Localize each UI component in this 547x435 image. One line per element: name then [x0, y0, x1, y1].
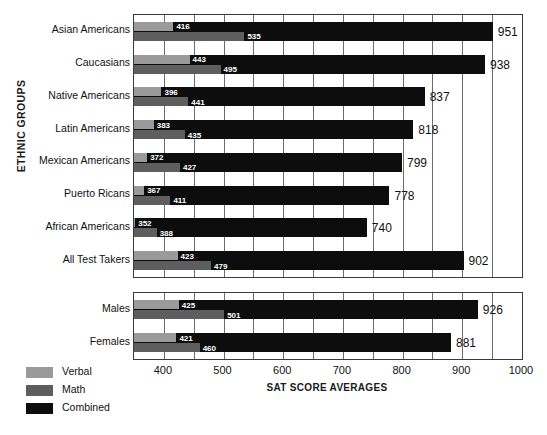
legend-swatch	[26, 403, 53, 414]
bar-verbal	[134, 333, 176, 342]
chart-row: 425501926	[134, 293, 522, 326]
bar-math	[134, 130, 185, 139]
bar-value-combined: 881	[451, 335, 476, 351]
chart-row: 383435818	[134, 113, 522, 146]
bar-verbal	[134, 186, 144, 195]
category-label-latin-americans: Latin Americans	[18, 122, 130, 134]
legend-swatch	[26, 367, 53, 378]
bar-math	[134, 196, 170, 205]
category-label-african-americans: African Americans	[18, 220, 130, 232]
bar-math	[134, 261, 211, 270]
category-label-caucasians: Caucasians	[18, 56, 130, 68]
legend-swatch	[26, 385, 53, 396]
bar-verbal	[134, 22, 173, 31]
bar-value-verbal: 352	[135, 219, 151, 228]
bar-value-math: 441	[188, 98, 204, 107]
chart-row: 421460881	[134, 326, 522, 359]
bar-value-math: 411	[170, 196, 186, 205]
bar-verbal	[134, 251, 178, 260]
category-label-males: Males	[18, 302, 130, 314]
bar-value-verbal: 416	[173, 22, 189, 31]
bar-value-verbal: 421	[176, 334, 192, 343]
x-tick-label: 700	[322, 364, 362, 376]
bar-value-math: 495	[221, 65, 237, 74]
chart-row: 416535951	[134, 15, 522, 48]
bar-verbal	[134, 55, 190, 64]
chart-row: 443495938	[134, 48, 522, 81]
category-label-puerto-ricans: Puerto Ricans	[18, 187, 130, 199]
x-tick-label: 900	[441, 364, 481, 376]
bar-verbal	[134, 153, 147, 162]
bar-value-combined: 837	[425, 89, 450, 105]
category-label-native-americans: Native Americans	[18, 89, 130, 101]
category-label-all-test-takers: All Test Takers	[18, 253, 130, 265]
x-axis-title: SAT SCORE AVERAGES	[133, 382, 521, 393]
bar-value-combined: 818	[413, 122, 438, 138]
bar-verbal	[134, 300, 179, 309]
chart-row: 367411778	[134, 179, 522, 212]
chart-panel-gender: 425501926421460881	[133, 292, 523, 360]
category-label-asian-americans: Asian Americans	[18, 23, 130, 35]
chart-row: 352388740	[134, 212, 522, 245]
x-tick-label: 400	[143, 364, 183, 376]
chart-row: 396441837	[134, 81, 522, 114]
bar-math	[134, 228, 157, 237]
bar-math	[134, 32, 244, 41]
bar-value-verbal: 367	[144, 186, 160, 195]
bar-math	[134, 310, 224, 319]
legend-label: Math	[62, 383, 85, 395]
bar-value-math: 535	[244, 32, 260, 41]
bar-value-math: 427	[180, 163, 196, 172]
bar-value-combined: 740	[367, 220, 392, 236]
legend-label: Verbal	[62, 365, 92, 377]
category-label-females: Females	[18, 335, 130, 347]
legend-label: Combined	[62, 401, 110, 413]
bar-value-verbal: 372	[147, 153, 163, 162]
bar-verbal	[134, 120, 154, 129]
bar-verbal	[134, 87, 161, 96]
bar-value-combined: 926	[478, 302, 503, 318]
bar-math	[134, 97, 188, 106]
bar-value-verbal: 425	[179, 301, 195, 310]
chart-panel-ethnic-groups: 4165359514434959383964418373834358183724…	[133, 14, 523, 278]
bar-value-verbal: 443	[190, 55, 206, 64]
chart-row: 372427799	[134, 146, 522, 179]
bar-math	[134, 163, 180, 172]
bar-value-verbal: 423	[178, 252, 194, 261]
x-tick-label: 600	[262, 364, 302, 376]
chart-row: 423479902	[134, 244, 522, 277]
bar-value-combined: 902	[464, 253, 489, 269]
bar-value-verbal: 396	[161, 88, 177, 97]
chart-root: ETHNIC GROUPS 41653595144349593839644183…	[0, 0, 547, 435]
category-label-mexican-americans: Mexican Americans	[18, 154, 130, 166]
bar-value-math: 501	[224, 311, 240, 320]
x-tick-label: 800	[382, 364, 422, 376]
bar-value-combined: 938	[485, 57, 510, 73]
bar-value-math: 479	[211, 262, 227, 271]
bar-value-math: 435	[185, 131, 201, 140]
bar-value-verbal: 383	[154, 121, 170, 130]
bar-value-combined: 778	[389, 188, 414, 204]
bar-value-math: 388	[157, 229, 173, 238]
bar-math	[134, 343, 200, 352]
bar-value-combined: 951	[493, 24, 518, 40]
bar-value-combined: 799	[402, 155, 427, 171]
bar-math	[134, 65, 221, 74]
x-tick-label: 1000	[501, 364, 541, 376]
bar-value-math: 460	[200, 344, 216, 353]
x-tick-label: 500	[203, 364, 243, 376]
